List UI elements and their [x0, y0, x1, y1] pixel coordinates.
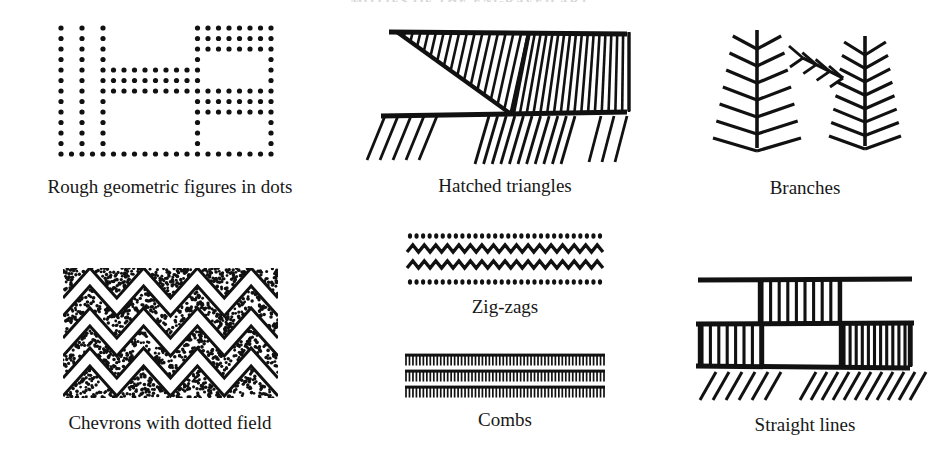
panel-rough-geometric-figures-in-dots: Rough geometric figures in dots — [0, 22, 340, 198]
caption-zig-zags: Zig-zags — [340, 296, 670, 318]
running-head: MOTIFS OF THE ENGRAVED ART — [0, 0, 940, 2]
figure-zig-zags — [340, 232, 670, 288]
panel-chevrons-with-dotted-field: Chevrons with dotted field — [0, 268, 340, 434]
figure-chevrons-with-dotted-field — [0, 268, 340, 398]
caption-combs: Combs — [340, 409, 670, 431]
caption-rough-geometric-figures-in-dots: Rough geometric figures in dots — [0, 176, 340, 198]
zigzags-svg — [407, 232, 603, 288]
figure-hatched-triangles — [340, 22, 670, 154]
panel-straight-lines: Straight lines — [670, 272, 940, 436]
hatched-triangles-svg — [379, 22, 631, 154]
combs-svg — [405, 348, 605, 396]
straight-lines-svg — [694, 272, 916, 400]
caption-chevrons-with-dotted-field: Chevrons with dotted field — [0, 412, 340, 434]
figure-combs — [340, 348, 670, 396]
figure-straight-lines — [670, 272, 940, 400]
caption-hatched-triangles: Hatched triangles — [340, 175, 670, 197]
branches-svg — [695, 22, 915, 156]
panel-branches: Branches — [670, 22, 940, 199]
figure-plate: MOTIFS OF THE ENGRAVED ART Rough geometr… — [0, 0, 940, 476]
panel-zig-zags: Zig-zags — [340, 232, 670, 318]
figure-branches — [670, 22, 940, 156]
chevrons-svg — [63, 268, 278, 398]
caption-branches: Branches — [670, 177, 940, 199]
panel-combs: Combs — [340, 348, 670, 431]
figure-rough-geometric-figures-in-dots — [0, 22, 340, 162]
caption-straight-lines: Straight lines — [670, 414, 940, 436]
panel-hatched-triangles: Hatched triangles — [340, 22, 670, 197]
dots-svg — [55, 22, 285, 162]
